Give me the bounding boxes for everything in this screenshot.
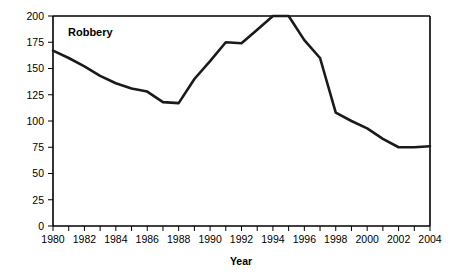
x-tick-label: 2002 <box>387 233 411 245</box>
y-tick-label: 25 <box>32 194 44 206</box>
x-tick-label: 1980 <box>41 233 65 245</box>
y-tick-label: 125 <box>26 89 44 101</box>
x-tick-label: 1986 <box>136 233 160 245</box>
y-tick-label: 150 <box>26 62 44 74</box>
x-tick-label: 2004 <box>418 233 442 245</box>
y-tick-label: 75 <box>32 141 44 153</box>
x-tick-label: 1996 <box>293 233 317 245</box>
x-axis-title: Year <box>230 255 252 267</box>
x-tick-label: 2000 <box>355 233 379 245</box>
robbery-line-chart: 0255075100125150175200 19801982198419861… <box>0 0 457 274</box>
y-tick-label: 50 <box>32 167 44 179</box>
x-tick-label: 1984 <box>104 233 128 245</box>
y-tick-label: 100 <box>26 115 44 127</box>
y-tick-label: 200 <box>26 10 44 22</box>
x-tick-label: 1998 <box>324 233 348 245</box>
y-tick-label: 175 <box>26 36 44 48</box>
x-tick-label: 1992 <box>230 233 254 245</box>
chart-canvas: 0255075100125150175200 19801982198419861… <box>0 0 457 274</box>
y-tick-label: 0 <box>38 220 44 232</box>
x-tick-label: 1994 <box>261 233 285 245</box>
series-label-robbery: Robbery <box>68 26 114 38</box>
x-tick-label: 1990 <box>198 233 222 245</box>
x-tick-label: 1988 <box>167 233 191 245</box>
x-tick-label: 1982 <box>73 233 97 245</box>
